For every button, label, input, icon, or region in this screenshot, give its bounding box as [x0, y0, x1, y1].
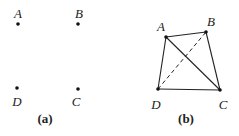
- point-c: [218, 88, 222, 92]
- label-c: C: [72, 94, 81, 109]
- edge-ab: [166, 32, 206, 37]
- diagram-canvas: A B D C (a) A B D C (b): [0, 0, 239, 136]
- point-b: [204, 30, 208, 34]
- point-a: [16, 22, 20, 26]
- label-a: A: [13, 6, 22, 21]
- caption-b: (b): [178, 111, 194, 126]
- edge-cd: [158, 89, 220, 90]
- point-c: [76, 87, 80, 91]
- point-a: [164, 35, 168, 39]
- figure-b: A B D C (b): [150, 14, 227, 126]
- label-c: C: [219, 97, 228, 112]
- figure-a: A B D C (a): [11, 6, 83, 126]
- label-a: A: [156, 19, 165, 34]
- label-b: B: [75, 6, 83, 21]
- label-d: D: [11, 94, 22, 109]
- label-b: B: [207, 14, 215, 29]
- edge-bc: [206, 32, 220, 90]
- point-b: [76, 22, 80, 26]
- label-d: D: [150, 97, 161, 112]
- point-d: [15, 86, 19, 90]
- point-d: [156, 87, 160, 91]
- edge-ac: [166, 37, 220, 90]
- caption-a: (a): [37, 111, 52, 126]
